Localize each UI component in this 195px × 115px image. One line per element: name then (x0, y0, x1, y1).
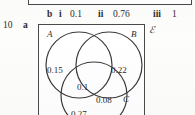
answer-part-label-b: b (47, 8, 52, 21)
answer-value-ii: 0.76 (113, 8, 130, 21)
textbook-answer-fragment: b i 0.1 ii 0.76 iii 1 10 a A B C 0.15 0.… (0, 0, 195, 115)
venn-value-c-only: 0.27 (71, 109, 87, 115)
answer-line-b: b i 0.1 ii 0.76 iii 1 (0, 8, 195, 21)
answer-roman-ii: ii (98, 8, 103, 21)
venn-value-b-and-c-only: 0.08 (96, 95, 112, 105)
venn-value-b-only: 0.22 (111, 65, 127, 75)
previous-answer-box-bottom-edge (28, 0, 192, 5)
answer-roman-iii: iii (153, 8, 161, 21)
answer-roman-i: i (59, 8, 62, 21)
venn-value-a-only: 0.15 (47, 65, 63, 75)
venn-diagram: A B C 0.15 0.22 0.1 0.08 0.27 0.18 (38, 24, 145, 115)
universal-set-symbol: ℰ (149, 25, 155, 35)
question-part-label: a (23, 19, 28, 32)
answer-value-i: 0.1 (70, 8, 82, 21)
venn-set-label-c: C (123, 95, 129, 104)
question-number: 10 (3, 19, 13, 32)
venn-set-label-b: B (131, 30, 137, 39)
venn-universal-set-frame: A B C 0.15 0.22 0.1 0.08 0.27 0.18 (38, 24, 145, 115)
answer-value-iii: 1 (172, 8, 177, 21)
venn-set-label-a: A (47, 30, 53, 39)
venn-value-a-and-b-and-c: 0.1 (77, 82, 88, 92)
